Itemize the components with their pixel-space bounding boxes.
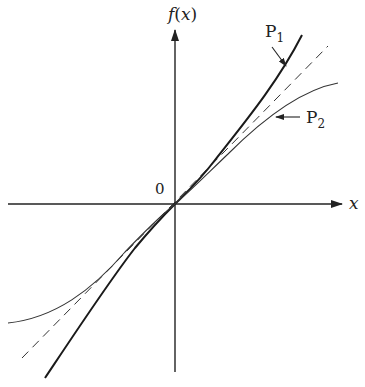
curve-p2 bbox=[8, 83, 338, 323]
figure-canvas: f(x) x 0 P1 P2 bbox=[0, 0, 365, 387]
y-axis-label: f(x) bbox=[166, 4, 197, 24]
curve-p1 bbox=[45, 35, 302, 378]
curve-label-p2: P2 bbox=[306, 107, 325, 131]
x-axis-label: x bbox=[349, 193, 359, 213]
origin-label: 0 bbox=[155, 180, 165, 198]
p1-pointer-arrow bbox=[272, 47, 286, 66]
curve-label-p1: P1 bbox=[265, 21, 284, 45]
